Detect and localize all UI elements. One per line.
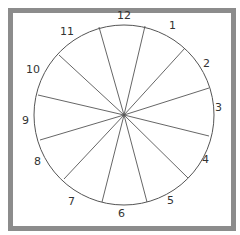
- hour-label-6: 6: [118, 207, 125, 220]
- hour-label-8: 8: [34, 155, 41, 168]
- spoke-line: [124, 115, 188, 178]
- hour-label-4: 4: [202, 153, 209, 166]
- spoke-line: [64, 115, 124, 179]
- spokes: [38, 26, 209, 202]
- hour-label-9: 9: [22, 114, 29, 127]
- hour-label-2: 2: [203, 57, 210, 70]
- spoke-line: [102, 115, 124, 202]
- hour-label-7: 7: [68, 195, 75, 208]
- hour-label-11: 11: [60, 25, 74, 38]
- spoke-line: [124, 26, 145, 115]
- clock-diagram: 12 1 2 3 4 5 6 7 8 9 10 11: [0, 0, 240, 235]
- hour-label-5: 5: [167, 194, 174, 207]
- hour-label-12: 12: [117, 9, 131, 22]
- spoke-line: [99, 27, 124, 115]
- hour-label-3: 3: [215, 101, 222, 114]
- hour-label-10: 10: [26, 63, 40, 76]
- spoke-line: [124, 115, 209, 136]
- spoke-line: [124, 115, 147, 202]
- spoke-line: [40, 115, 124, 140]
- spoke-line: [59, 55, 124, 115]
- spoke-line: [38, 95, 124, 115]
- hour-label-1: 1: [169, 19, 176, 32]
